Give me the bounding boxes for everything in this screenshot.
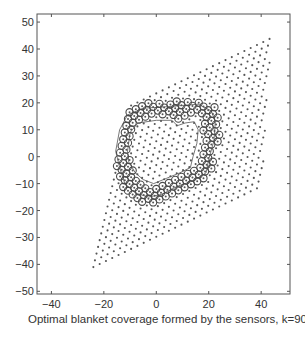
grid-point [240, 111, 242, 113]
grid-point [218, 158, 220, 160]
grid-point [235, 108, 237, 110]
grid-point [168, 158, 170, 160]
grid-point [117, 254, 119, 256]
grid-point [152, 130, 154, 132]
grid-point [188, 214, 190, 216]
grid-point [165, 148, 167, 150]
grid-point [138, 143, 140, 145]
grid-point [217, 69, 219, 71]
grid-point [179, 206, 181, 208]
grid-point [187, 77, 189, 79]
grid-point [146, 133, 148, 135]
grid-point [155, 116, 157, 118]
grid-point [234, 162, 236, 164]
grid-point [215, 195, 217, 197]
grid-point [158, 151, 160, 153]
grid-point [163, 226, 165, 228]
grid-point [243, 122, 245, 124]
grid-point [232, 121, 234, 123]
grid-point [229, 87, 231, 89]
grid-point [253, 129, 255, 131]
grid-point [232, 193, 234, 195]
grid-point [190, 88, 192, 90]
grid-point [136, 149, 138, 151]
grid-point [136, 245, 138, 247]
grid-point [265, 51, 267, 53]
grid-point [124, 251, 126, 253]
grid-point [199, 71, 201, 73]
grid-point [141, 129, 143, 131]
grid-point [184, 210, 186, 212]
grid-point [218, 182, 220, 184]
grid-point [201, 88, 203, 90]
grid-point [201, 184, 203, 186]
grid-point [220, 103, 222, 105]
grid-point [174, 155, 176, 157]
grid-point [92, 266, 94, 268]
grid-point [111, 185, 113, 187]
grid-point [146, 204, 148, 206]
grid-point [250, 119, 252, 121]
grid-point [245, 91, 247, 93]
grid-point [204, 75, 206, 77]
grid-point [256, 116, 258, 118]
grid-point [162, 209, 164, 211]
grid-point [171, 216, 173, 218]
grid-point [193, 146, 195, 148]
grid-point [117, 230, 119, 232]
grid-point [114, 243, 116, 245]
grid-point [240, 135, 242, 137]
grid-point [207, 85, 209, 87]
grid-point [201, 208, 203, 210]
grid-point [243, 169, 245, 171]
grid-point [151, 136, 153, 138]
grid-point [143, 146, 145, 148]
grid-point [188, 190, 190, 192]
grid-point [182, 145, 184, 147]
grid-point [246, 108, 248, 110]
grid-point [248, 149, 250, 151]
grid-point [135, 204, 137, 206]
grid-point [224, 131, 226, 133]
grid-point [195, 211, 197, 213]
grid-point [269, 38, 271, 40]
grid-point [166, 213, 168, 215]
grid-point [242, 128, 244, 130]
grid-point [224, 155, 226, 157]
grid-point [140, 231, 142, 233]
grid-point [136, 221, 138, 223]
grid-point [267, 68, 269, 70]
grid-point [108, 199, 110, 201]
grid-point [199, 215, 201, 217]
grid-point [231, 152, 233, 154]
grid-point [143, 242, 145, 244]
y-tick-label: 30 [22, 70, 34, 82]
grid-point [246, 132, 248, 134]
grid-point [235, 179, 237, 181]
grid-point [237, 125, 239, 127]
grid-point [160, 216, 162, 218]
grid-point [188, 142, 190, 144]
grid-point [173, 138, 175, 140]
grid-point [116, 189, 118, 191]
grid-point [221, 168, 223, 170]
grid-point [110, 216, 112, 218]
grid-point [262, 136, 264, 138]
grid-point [188, 118, 190, 120]
grid-point [243, 50, 245, 52]
grid-point [182, 193, 184, 195]
grid-point [212, 208, 214, 210]
grid-point [95, 253, 97, 255]
grid-point [155, 164, 157, 166]
grid-point [199, 119, 201, 121]
grid-point [127, 237, 129, 239]
grid-point [257, 85, 259, 87]
grid-point [220, 199, 222, 201]
grid-point [136, 101, 138, 103]
grid-point [177, 142, 179, 144]
grid-point [226, 148, 228, 150]
grid-point [210, 72, 212, 74]
grid-point [256, 92, 258, 94]
grid-point [187, 125, 189, 127]
grid-point [168, 206, 170, 208]
